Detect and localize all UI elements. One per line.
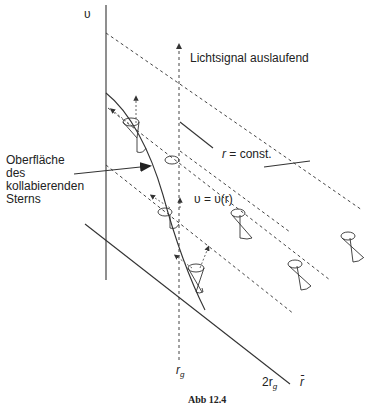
light-cone [231, 209, 252, 239]
v-of-r-label: υ = υ(r) [194, 192, 233, 206]
surface-label-line2: des [6, 166, 25, 180]
surface-label-line3: kollabierenden [6, 179, 84, 193]
spacetime-diagram: υ [0, 0, 366, 404]
two-rg-label: 2rg [262, 375, 278, 391]
r-const-label: r = const. [222, 147, 272, 161]
rg-label: rg [176, 363, 185, 379]
r-const-pointer-left [180, 122, 213, 148]
r-bar-axis-label: r̄ [300, 375, 305, 389]
surface-pointer-arrow [74, 166, 150, 174]
light-signal-label: Lichtsignal auslaufend [190, 51, 309, 65]
light-cone [158, 208, 179, 229]
star-surface-curve [106, 93, 205, 310]
light-arrow [152, 196, 170, 208]
surface-label-line1: Oberfläche [6, 153, 65, 167]
light-cone [341, 232, 364, 262]
v-axis-label: υ [84, 7, 91, 21]
r-const-pointer-right [264, 161, 310, 167]
surface-label-line4: Sterns [6, 192, 41, 206]
light-arrow [176, 256, 192, 268]
figure-caption: Abb 12.4 [188, 394, 226, 404]
light-cone [288, 260, 311, 290]
dashed-diagonal-3 [106, 165, 294, 314]
bottom-diagonal-line [85, 224, 290, 384]
